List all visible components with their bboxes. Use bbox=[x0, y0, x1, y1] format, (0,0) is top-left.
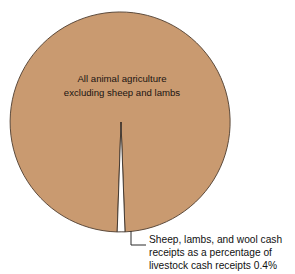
pie-chart-figure: All animal agriculture excluding sheep a… bbox=[0, 0, 295, 274]
slice-label-line-2: excluding sheep and lambs bbox=[64, 87, 180, 98]
slice-label-line-1: All animal agriculture bbox=[77, 73, 166, 84]
callout-line-3: livestock cash receipts 0.4% bbox=[149, 260, 277, 271]
callout-line-2: receipts as a percentage of bbox=[149, 247, 272, 258]
callout-line-1: Sheep, lambs, and wool cash bbox=[149, 234, 282, 245]
pie-chart-svg: All animal agriculture excluding sheep a… bbox=[0, 0, 295, 274]
